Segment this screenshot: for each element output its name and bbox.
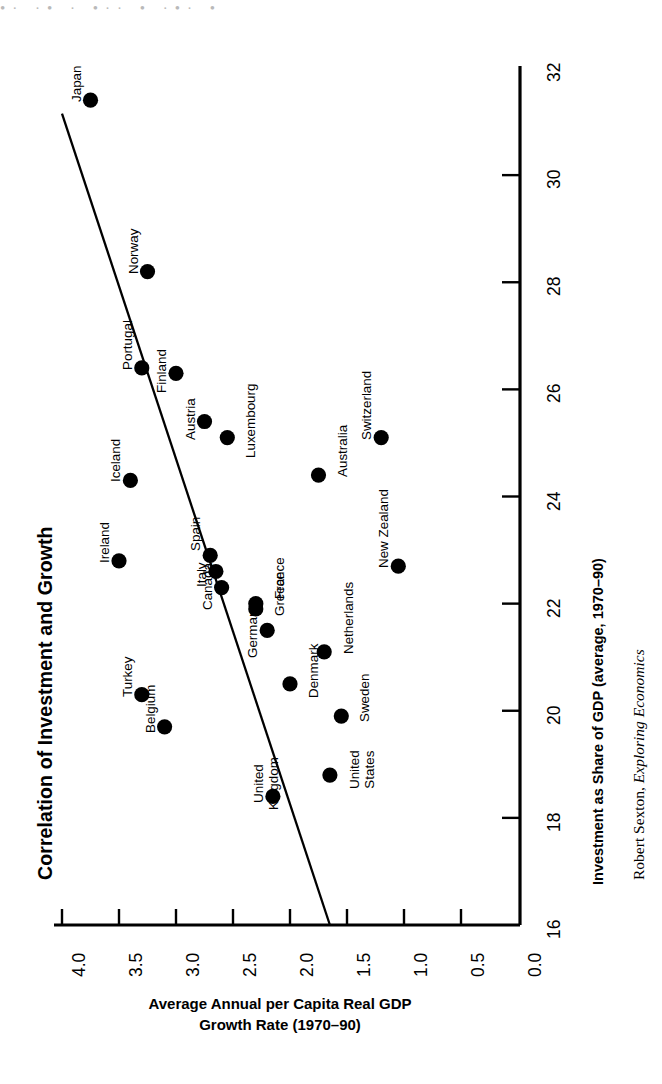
data-point xyxy=(282,676,297,691)
x-axis-tick-label: 32 xyxy=(544,63,565,82)
data-point-label: Netherlands xyxy=(341,582,356,654)
data-point-label: Switzerland xyxy=(359,370,374,439)
x-axis-tick-label: 30 xyxy=(544,170,565,189)
data-point xyxy=(168,366,183,381)
data-point-label: Belgium xyxy=(143,684,158,732)
data-point-label: Germany xyxy=(245,603,260,658)
data-point-label: Austria xyxy=(183,398,198,440)
data-point-label: Turkey xyxy=(120,656,135,696)
data-point-label: Norway xyxy=(126,228,141,273)
x-axis-tick-label: 16 xyxy=(544,920,565,939)
data-point xyxy=(83,93,98,108)
y-axis-title: Average Annual per Capita Real GDP Growt… xyxy=(40,993,520,1035)
data-point-label: Denmark xyxy=(306,644,321,698)
data-point-label: Finland xyxy=(154,349,169,393)
data-point xyxy=(214,580,229,595)
data-point-label: Iceland xyxy=(108,439,123,482)
y-axis-tick-label: 3.0 xyxy=(183,953,204,977)
data-point-label: Luxembourg xyxy=(243,383,258,457)
x-axis-tick-label: 24 xyxy=(544,491,565,510)
y-axis-tick-label: 1.0 xyxy=(411,953,432,977)
source-credit-work: Exploring Economics xyxy=(630,649,647,783)
x-axis-tick-label: 18 xyxy=(544,812,565,831)
y-axis-tick-label: 1.5 xyxy=(354,953,375,977)
data-point-label: Ireland xyxy=(97,522,112,563)
chart-title: Correlation of Investment and Growth xyxy=(34,526,57,880)
y-axis-tick-label: 4.0 xyxy=(69,953,90,977)
y-axis-tick-label: 2.0 xyxy=(297,953,318,977)
y-axis-title-line-1: Average Annual per Capita Real GDP xyxy=(40,993,520,1014)
data-point xyxy=(140,264,155,279)
data-point xyxy=(123,473,138,488)
data-point xyxy=(197,414,212,429)
source-credit-author: Robert Sexton, xyxy=(630,783,647,880)
data-point xyxy=(260,623,275,638)
data-point xyxy=(334,709,349,724)
data-point-label: UnitedStates xyxy=(347,750,377,789)
y-axis-tick-label: 2.5 xyxy=(240,953,261,977)
data-point-label-line: Kingdom xyxy=(266,758,281,811)
x-axis-tick-label: 26 xyxy=(544,384,565,403)
data-point-label: Japan xyxy=(69,66,84,102)
y-axis-tick-label: 3.5 xyxy=(126,953,147,977)
data-point-label-line: States xyxy=(362,750,377,789)
data-point-label-line: United xyxy=(251,758,266,811)
data-point xyxy=(220,430,235,445)
data-point xyxy=(111,553,126,568)
data-point xyxy=(322,767,337,782)
data-point-label: France xyxy=(272,557,287,599)
x-axis-tick-label: 20 xyxy=(544,705,565,724)
data-point xyxy=(391,559,406,574)
data-point xyxy=(374,430,389,445)
y-axis-tick-label: 0.5 xyxy=(468,953,489,977)
x-axis-tick-label: 28 xyxy=(544,277,565,296)
data-point xyxy=(203,548,218,563)
data-point xyxy=(311,467,326,482)
y-axis-title-line-2: Growth Rate (1970–90) xyxy=(40,1014,520,1035)
data-point-label: Portugal xyxy=(120,320,135,370)
data-point-label-line: United xyxy=(347,750,362,789)
data-point-label: Sweden xyxy=(357,674,372,722)
data-point-label: New Zealand xyxy=(376,489,391,568)
y-axis-tick-label: 0.0 xyxy=(525,953,546,977)
x-axis-tick-label: 22 xyxy=(544,598,565,617)
data-point-label: Spain xyxy=(188,517,203,551)
source-credit: Robert Sexton, Exploring Economics xyxy=(630,649,648,880)
data-point-label: UnitedKingdom xyxy=(251,758,281,811)
x-axis-title: Investment as Share of GDP (average, 197… xyxy=(590,558,606,885)
data-point-label: Canada xyxy=(200,563,215,610)
data-point xyxy=(134,360,149,375)
data-point xyxy=(157,719,172,734)
data-point-label: Australia xyxy=(335,425,350,477)
